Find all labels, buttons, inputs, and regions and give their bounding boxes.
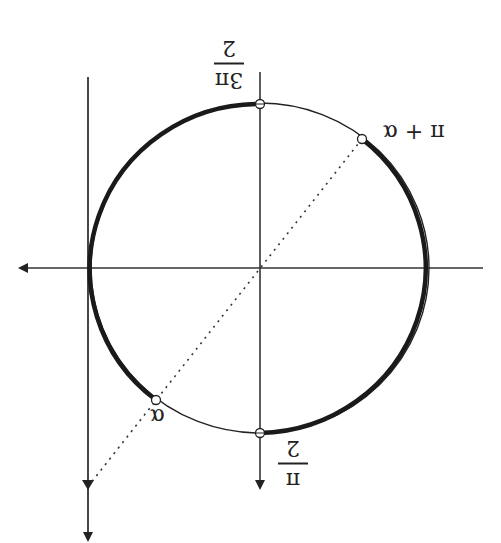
label-alpha: α	[150, 404, 165, 429]
thick-arc-right	[260, 139, 426, 433]
dotted-ray	[90, 139, 362, 484]
label-pi-over-2-den: 2	[286, 436, 300, 460]
unit-circle-diagram	[0, 0, 501, 543]
label-pi-plus-alpha: π + α	[383, 120, 445, 145]
label-pi-over-2: π 2	[278, 436, 308, 492]
thick-arc-left	[90, 104, 260, 400]
label-pi-over-2-num: π	[286, 468, 300, 492]
label-three-pi-over-2: 3π 2	[214, 36, 244, 92]
point-pi-plus-alpha	[358, 135, 367, 144]
label-three-pi-over-2-den: 2	[222, 36, 236, 60]
fraction-bar	[214, 63, 244, 65]
tangent-intersection-arrow	[82, 480, 94, 490]
fraction-bar	[278, 463, 308, 465]
label-three-pi-over-2-num: 3π	[215, 68, 243, 92]
